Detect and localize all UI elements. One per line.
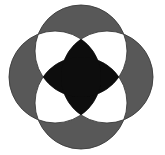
four-circle-overlap-figure bbox=[0, 0, 165, 155]
